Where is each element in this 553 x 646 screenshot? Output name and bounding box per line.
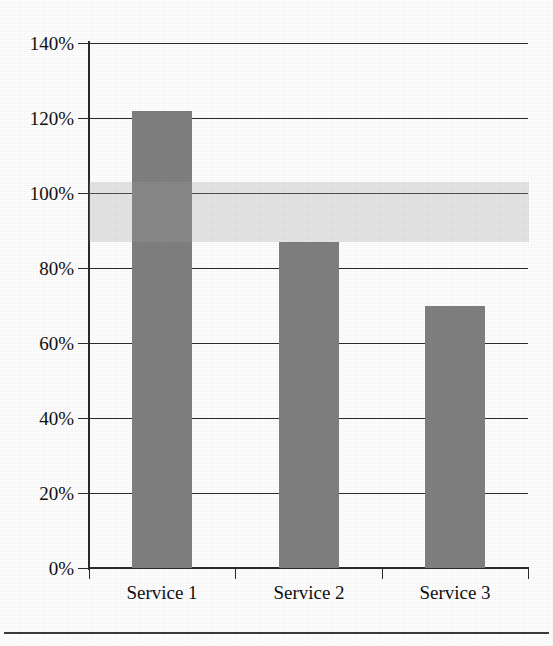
bar-service-3[interactable]: [425, 306, 485, 569]
y-tick-mark-60: [78, 343, 89, 344]
x-category-label-service-3: Service 3: [380, 582, 530, 604]
y-tick-mark-20: [78, 493, 89, 494]
bar-service-1[interactable]: [132, 111, 192, 569]
x-tick-mark-2: [382, 568, 383, 579]
footer-divider: [4, 632, 549, 634]
y-tick-label-80: 80%: [0, 259, 74, 278]
y-tick-label-20: 20%: [0, 484, 74, 503]
y-tick-mark-0: [78, 568, 89, 569]
y-tick-label-140: 140%: [0, 34, 74, 53]
y-tick-label-60: 60%: [0, 334, 74, 353]
bar-chart-figure: 140% 120% 100% 80% 60% 40% 20% 0% Servic…: [0, 0, 553, 646]
y-tick-mark-120: [78, 118, 89, 119]
y-tick-mark-80: [78, 268, 89, 269]
bar-service-2[interactable]: [279, 242, 339, 568]
x-tick-mark-0: [89, 568, 90, 579]
gridline-140: [89, 43, 528, 44]
y-tick-label-40: 40%: [0, 409, 74, 428]
y-tick-mark-140: [78, 43, 89, 44]
x-category-label-service-1: Service 1: [87, 582, 237, 604]
y-axis-line: [88, 41, 90, 570]
y-tick-mark-40: [78, 418, 89, 419]
y-tick-label-0: 0%: [0, 559, 74, 578]
x-category-label-service-2: Service 2: [234, 582, 384, 604]
y-tick-label-120: 120%: [0, 109, 74, 128]
x-tick-mark-3: [528, 568, 529, 579]
y-tick-mark-100: [78, 193, 89, 194]
x-tick-mark-1: [235, 568, 236, 579]
plot-area: [89, 43, 528, 568]
y-tick-label-100: 100%: [0, 184, 74, 203]
